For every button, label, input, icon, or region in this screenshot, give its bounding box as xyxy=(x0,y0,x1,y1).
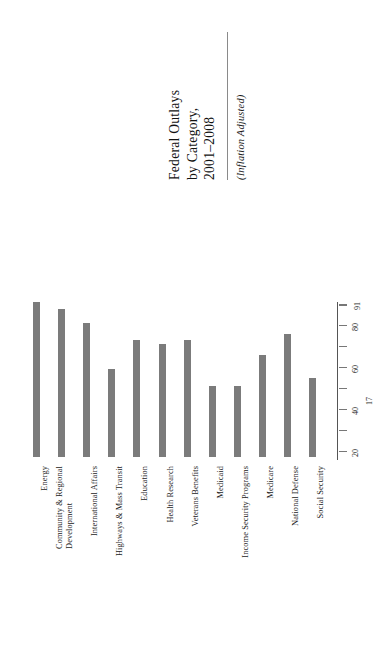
category-label: Income Security Programs xyxy=(241,466,251,558)
bar-education xyxy=(133,340,140,457)
axis-min-label: 17 xyxy=(365,397,374,405)
bar-health-research xyxy=(159,344,166,457)
category-label-line: Veterans Benefits xyxy=(191,466,201,527)
category-label-line: National Defense xyxy=(291,466,301,526)
category-label: Education xyxy=(140,466,150,501)
category-label: International Affairs xyxy=(90,466,100,536)
bar-national-defense xyxy=(284,334,291,457)
axis-tick xyxy=(339,388,347,389)
category-label-line: Medicaid xyxy=(216,466,226,498)
axis-max-label: 91 xyxy=(353,302,362,310)
category-label-line: Education xyxy=(140,466,150,501)
category-label-line: Health Research xyxy=(166,466,176,523)
category-label: National Defense xyxy=(291,466,301,526)
plot-area: EnergyCommunity & RegionalDevelopmentInt… xyxy=(0,0,392,653)
category-label-line: Energy xyxy=(40,466,50,491)
axis-tick-label: 20 xyxy=(351,449,360,457)
bar-income-security-programs xyxy=(234,386,241,457)
axis-tick xyxy=(339,430,347,431)
category-label: Highways & Mass Transit xyxy=(115,466,125,556)
category-label: Community & RegionalDevelopment xyxy=(55,466,75,549)
category-label-line: Community & Regional xyxy=(55,466,65,549)
category-label-line: International Affairs xyxy=(90,466,100,536)
category-label: Medicare xyxy=(266,466,276,498)
bar-community-regional-development xyxy=(58,309,65,457)
axis-tick xyxy=(339,304,347,305)
bar-veterans-benefits xyxy=(184,340,191,457)
chart-figure: Federal Outlays by Category, 2001–2008 (… xyxy=(0,0,392,653)
category-label-line: Highways & Mass Transit xyxy=(115,466,125,556)
category-label: Medicaid xyxy=(216,466,226,498)
category-label-line: Development xyxy=(65,466,75,549)
category-label: Social Security xyxy=(316,466,326,518)
bar-energy xyxy=(33,302,40,457)
axis-tick xyxy=(339,325,347,326)
bar-social-security xyxy=(309,378,316,457)
category-label: Veterans Benefits xyxy=(191,466,201,527)
category-label-line: Social Security xyxy=(316,466,326,518)
bar-medicaid xyxy=(209,386,216,457)
bar-medicare xyxy=(259,355,266,457)
bar-international-affairs xyxy=(83,323,90,457)
axis-tick xyxy=(339,409,347,410)
category-label: Energy xyxy=(40,466,50,491)
axis-tick-label: 40 xyxy=(351,407,360,415)
axis-tick-label: 80 xyxy=(351,323,360,331)
axis-tick xyxy=(339,367,347,368)
category-label: Health Research xyxy=(166,466,176,523)
category-label-line: Income Security Programs xyxy=(241,466,251,558)
axis-tick xyxy=(339,346,347,347)
axis-tick xyxy=(339,451,347,452)
bar-highways-mass-transit xyxy=(108,369,115,457)
axis-tick-label: 60 xyxy=(351,365,360,373)
category-label-line: Medicare xyxy=(266,466,276,498)
